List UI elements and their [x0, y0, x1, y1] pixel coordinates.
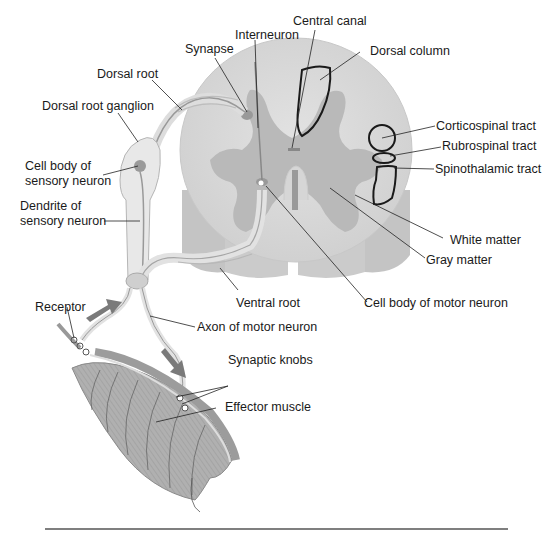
label-spinothalamic-tract: Spinothalamic tract [435, 162, 541, 177]
label-dorsal-root: Dorsal root [97, 67, 158, 82]
label-receptor: Receptor [35, 300, 86, 315]
label-interneuron: Interneuron [235, 28, 299, 43]
sensory-cell-body [134, 160, 146, 172]
label-dorsal-column: Dorsal column [370, 44, 450, 59]
label-rubrospinal-tract: Rubrospinal tract [442, 139, 537, 154]
label-cell-body-sensory-line1: Cell body of [25, 159, 91, 174]
label-white-matter: White matter [450, 233, 521, 248]
label-synaptic-knobs: Synaptic knobs [228, 353, 313, 368]
reflex-arc-diagram: Central canal Interneuron Synapse Dorsal… [0, 0, 547, 537]
label-dendrite-sensory-line1: Dendrite of [20, 199, 81, 214]
synaptic-knob [182, 405, 188, 411]
label-central-canal: Central canal [293, 14, 367, 29]
label-dendrite-sensory-line2: sensory neuron [20, 214, 106, 229]
label-ventral-root: Ventral root [236, 296, 300, 311]
label-synapse: Synapse [185, 42, 234, 57]
effector-muscle [72, 363, 232, 500]
central-canal [288, 148, 300, 151]
label-effector-muscle: Effector muscle [225, 400, 311, 415]
label-cell-body-motor: Cell body of motor neuron [364, 296, 508, 311]
label-corticospinal-tract: Corticospinal tract [436, 119, 536, 134]
label-cell-body-sensory-line2: sensory neuron [25, 174, 111, 189]
diagram-artwork [0, 0, 547, 537]
label-gray-matter: Gray matter [426, 253, 492, 268]
label-dorsal-root-ganglion: Dorsal root ganglion [42, 99, 154, 114]
label-axon-motor: Axon of motor neuron [197, 320, 317, 335]
